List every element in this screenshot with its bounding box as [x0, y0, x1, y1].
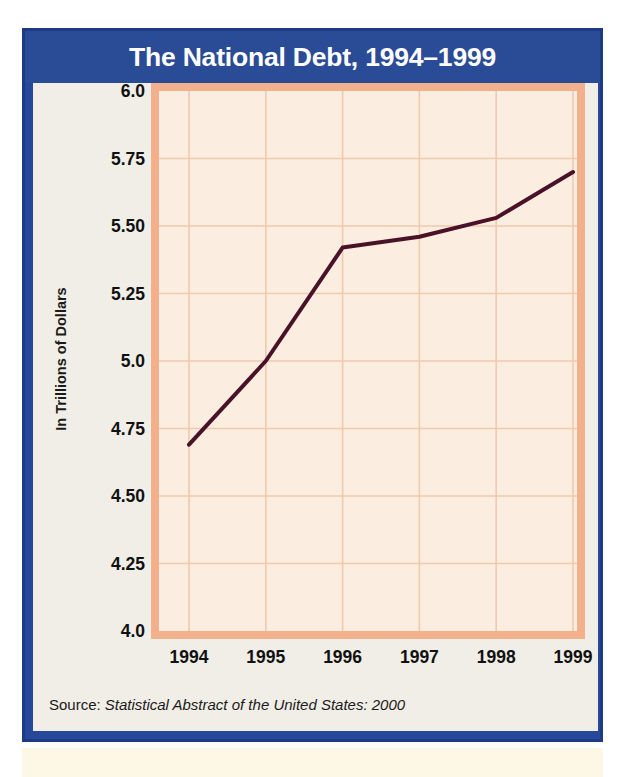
- x-axis-tick-labels: 199419951996199719981999: [151, 647, 585, 677]
- page-title: The National Debt, 1994–1999: [129, 42, 496, 73]
- source-reference: Statistical Abstract of the United State…: [105, 696, 405, 713]
- x-axis-tick-label: 1999: [554, 647, 593, 668]
- y-axis-tick-label: 5.75: [111, 148, 145, 169]
- chart-figure: The National Debt, 1994–1999 In Trillion…: [22, 28, 603, 742]
- plot-area: [159, 91, 577, 631]
- y-axis-tick-label: 5.0: [121, 351, 145, 372]
- y-axis-tick-label: 5.25: [111, 283, 145, 304]
- x-axis-tick-label: 1994: [170, 647, 209, 668]
- chart-title-bar: The National Debt, 1994–1999: [25, 31, 600, 83]
- plot-frame: [151, 83, 585, 639]
- y-axis-tick-label: 5.50: [111, 216, 145, 237]
- source-note: Source: Statistical Abstract of the Unit…: [33, 677, 598, 731]
- x-axis-tick-label: 1998: [477, 647, 516, 668]
- x-axis-tick-label: 1997: [400, 647, 439, 668]
- x-axis-tick-label: 1996: [323, 647, 362, 668]
- x-axis-tick-label: 1995: [246, 647, 285, 668]
- horizontal-gridlines: [159, 91, 577, 631]
- line-chart-svg: [159, 91, 577, 631]
- source-label: Source:: [49, 696, 101, 713]
- page-bottom-strip: [22, 748, 603, 777]
- y-axis-tick-label: 4.0: [121, 621, 145, 642]
- y-axis-tick-label: 4.75: [111, 418, 145, 439]
- y-axis-tick-labels: 6.05.755.505.255.04.754.504.254.0: [67, 83, 145, 677]
- y-axis-tick-label: 4.25: [111, 553, 145, 574]
- chart-plot-container: In Trillions of Dollars 6.05.755.505.255…: [33, 83, 598, 677]
- y-axis-tick-label: 6.0: [121, 81, 145, 102]
- y-axis-tick-label: 4.50: [111, 486, 145, 507]
- debt-line-series: [189, 172, 573, 445]
- chart-panel: In Trillions of Dollars 6.05.755.505.255…: [33, 83, 598, 731]
